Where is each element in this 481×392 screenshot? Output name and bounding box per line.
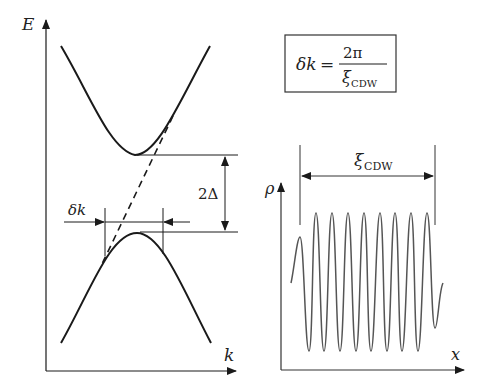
formula-equals: = (320, 54, 334, 74)
rho-axis-label: ρ (264, 179, 275, 198)
band-diagram: E k 2Δ δk (21, 14, 238, 371)
formula-numerator: 2π (343, 44, 363, 62)
cdw-figure: E k 2Δ δk δk = 2π ξ CDW ρ x (0, 0, 481, 392)
energy-axis-label: E (21, 14, 35, 34)
x-axis-label: x (451, 345, 460, 364)
charge-density-wave (291, 213, 443, 351)
gap-label: 2Δ (198, 185, 219, 203)
formula-denominator-sub: CDW (351, 78, 378, 89)
upper-band-curve (61, 46, 210, 155)
k-axis-label: k (224, 345, 234, 365)
formula-box: δk = 2π ξ CDW (285, 35, 396, 92)
delta-k-label: δk (68, 201, 86, 219)
lower-band-curve (61, 233, 211, 343)
density-wave-plot: ρ x ξ CDW (264, 145, 464, 370)
xi-subscript: CDW (364, 160, 393, 173)
formula-lhs: δk (296, 54, 317, 74)
